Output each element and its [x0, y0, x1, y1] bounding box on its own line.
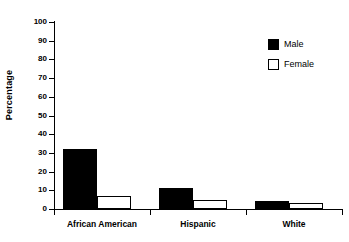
x-tick-mark — [54, 210, 55, 215]
bar-male-hispanic — [159, 188, 193, 210]
y-tick-label-text: 0 — [1, 205, 47, 213]
bar-female-african-american — [97, 196, 131, 209]
y-tick-label-text: 40 — [1, 130, 47, 138]
y-tick-label: 70 — [0, 74, 47, 82]
y-tick-label: 0 — [0, 205, 47, 213]
y-tick-label-text: 60 — [1, 93, 47, 101]
y-tick-label: 20 — [0, 168, 47, 176]
bar-male-african-american — [63, 149, 97, 209]
chart-legend: Male Female — [268, 36, 314, 76]
x-tick-mark — [246, 210, 247, 215]
y-tick-label-text: 100 — [1, 18, 47, 26]
bar-male-white — [255, 201, 289, 209]
y-tick-label: 40 — [0, 130, 47, 138]
y-tick-label: 100 — [0, 18, 47, 26]
legend-swatch-male-icon — [268, 39, 279, 50]
y-tick-label: 50 — [0, 112, 47, 120]
y-tick-label: 60 — [0, 93, 47, 101]
y-tick-label: 30 — [0, 149, 47, 157]
x-tick-mark — [150, 210, 151, 215]
x-axis-label-hispanic: Hispanic — [150, 219, 246, 229]
legend-item-male: Male — [268, 36, 314, 52]
y-tick-label-text: 10 — [1, 186, 47, 194]
y-tick-label-text: 30 — [1, 149, 47, 157]
y-tick-label-text: 80 — [1, 55, 47, 63]
y-tick-label-text: 20 — [1, 168, 47, 176]
x-axis-line — [54, 209, 343, 210]
bar-female-hispanic — [193, 200, 227, 209]
x-axis-label-white: White — [246, 219, 342, 229]
x-axis-label-african-american: African American — [54, 219, 150, 229]
y-tick-label-text: 90 — [1, 37, 47, 45]
y-tick-label-text: 70 — [1, 74, 47, 82]
y-tick-label: 10 — [0, 186, 47, 194]
x-tick-mark — [342, 210, 343, 215]
y-tick-label-text: 50 — [1, 112, 47, 120]
legend-label-male: Male — [284, 39, 304, 49]
bar-female-white — [289, 203, 323, 209]
y-tick-label: 80 — [0, 55, 47, 63]
legend-item-female: Female — [268, 56, 314, 72]
legend-swatch-female-icon — [268, 59, 279, 70]
bar-chart-figure: Percentage 1009080706050403020100 Africa… — [0, 0, 349, 242]
y-tick-label: 90 — [0, 37, 47, 45]
legend-label-female: Female — [284, 59, 314, 69]
